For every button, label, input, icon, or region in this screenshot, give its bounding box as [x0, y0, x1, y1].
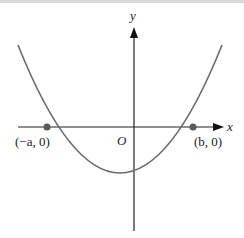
- x-axis-arrow-icon: [213, 123, 224, 131]
- x-axis-label: x: [226, 119, 233, 134]
- right-root-point: [190, 124, 197, 131]
- origin-label: O: [117, 133, 127, 148]
- left-root-point: [44, 124, 51, 131]
- parabola-diagram: y x O (−a, 0) (b, 0): [0, 0, 244, 238]
- left-root-label: (−a, 0): [15, 134, 50, 149]
- parabola-curve: [18, 45, 222, 173]
- y-axis-label: y: [128, 8, 136, 23]
- y-axis-arrow-icon: [130, 27, 138, 38]
- right-root-label: (b, 0): [194, 134, 222, 149]
